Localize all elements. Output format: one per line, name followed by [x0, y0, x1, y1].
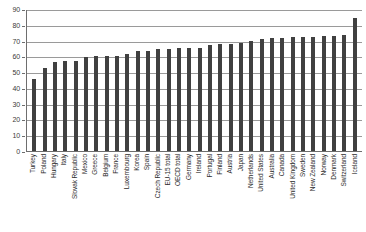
bar — [156, 49, 160, 151]
bar — [322, 36, 326, 151]
x-axis-tick-label: Norway — [320, 154, 327, 175]
y-axis-tick-label: 60 — [0, 53, 20, 60]
bar — [311, 37, 315, 151]
bar-slot — [60, 10, 70, 151]
x-axis-tick-label: Portugal — [206, 154, 213, 177]
bar-slot — [267, 10, 277, 151]
bar — [270, 38, 274, 151]
bar — [229, 44, 233, 151]
bar-slot — [101, 10, 111, 151]
x-axis-tick-label: Hungary — [51, 154, 58, 178]
x-axis-tick-label: Greece — [92, 154, 99, 175]
x-axis-label-slot: Ireland — [194, 153, 204, 231]
x-axis-label-slot: Poland — [38, 153, 48, 231]
y-axis-tick-label: 20 — [0, 116, 20, 123]
bar — [53, 62, 57, 151]
bar — [291, 37, 295, 151]
y-axis-tick-mark — [22, 10, 25, 11]
bar — [342, 35, 346, 151]
bar — [115, 56, 119, 151]
x-axis-tick-label: Germany — [186, 154, 193, 180]
x-axis-tick-label: Poland — [40, 154, 47, 174]
bar-slot — [132, 10, 142, 151]
x-axis-label-slot: Luxembourg — [121, 153, 131, 231]
y-axis-tick-mark — [22, 120, 25, 121]
x-axis-label-slot: Norway — [319, 153, 329, 231]
bar — [260, 39, 264, 151]
x-axis-tick-label: Mexico — [82, 154, 89, 174]
x-axis-tick-label: Japan — [237, 154, 244, 171]
bar — [105, 56, 109, 151]
x-axis-label-slot: Slovak Republic — [70, 153, 80, 231]
bar-slot — [246, 10, 256, 151]
x-axis-tick-label: Ireland — [196, 154, 203, 173]
bar-slot — [236, 10, 246, 151]
y-axis-tick-label: 30 — [0, 101, 20, 108]
bar-slot — [39, 10, 49, 151]
y-axis-tick-mark — [22, 57, 25, 58]
x-axis-label-slot: EU-15 total — [163, 153, 173, 231]
x-axis-label-slot: Austria — [225, 153, 235, 231]
bar — [63, 61, 67, 151]
x-axis-tick-label: Australia — [269, 154, 276, 178]
y-axis-tick-label: 70 — [0, 38, 20, 45]
y-axis-tick-label: 80 — [0, 22, 20, 29]
bar — [332, 36, 336, 151]
x-axis-tick-label: Iceland — [352, 154, 359, 174]
bar-slot — [91, 10, 101, 151]
bar-slot — [308, 10, 318, 151]
x-axis-tick-label: New Zealand — [310, 154, 317, 191]
y-axis-tick-mark — [22, 42, 25, 43]
y-axis-tick-mark — [22, 152, 25, 153]
x-axis-tick-label: Belgium — [103, 154, 110, 177]
x-axis-tick-label: Korea — [134, 154, 141, 171]
bar-slot — [277, 10, 287, 151]
bar — [198, 48, 202, 152]
bar-slot — [288, 10, 298, 151]
x-axis-label-slot: Korea — [132, 153, 142, 231]
bar-slot — [153, 10, 163, 151]
x-axis-labels: TurkeyPolandHungaryItalySlovak RepublicM… — [26, 153, 362, 231]
x-axis-label-slot: Hungary — [49, 153, 59, 231]
y-axis: 9080706050403020100 — [0, 0, 24, 152]
x-axis-label-slot: Turkey — [28, 153, 38, 231]
bar-slot — [184, 10, 194, 151]
y-axis-tick-mark — [22, 136, 25, 137]
x-axis-tick-label: OECD total — [175, 154, 182, 186]
bar — [187, 48, 191, 151]
bar-slot — [195, 10, 205, 151]
x-axis-tick-label: Finland — [217, 154, 224, 175]
bar-chart: 9080706050403020100 TurkeyPolandHungaryI… — [0, 0, 366, 232]
bar — [280, 38, 284, 151]
x-axis-tick-label: Czech Republic — [154, 154, 161, 198]
x-axis-label-slot: Italy — [59, 153, 69, 231]
plot-area — [26, 10, 362, 152]
bar-slot — [215, 10, 225, 151]
y-axis-tick-label: 0 — [0, 148, 20, 155]
x-axis-label-slot: Germany — [184, 153, 194, 231]
y-axis-tick-label: 90 — [0, 6, 20, 13]
bar — [353, 18, 357, 151]
bar — [208, 45, 212, 152]
y-axis-tick-mark — [22, 73, 25, 74]
x-axis-label-slot: Netherlands — [246, 153, 256, 231]
x-axis-tick-label: Italy — [61, 154, 68, 165]
x-axis-tick-label: Luxembourg — [123, 154, 130, 189]
bar-slot — [70, 10, 80, 151]
x-axis-label-slot: Switzerland — [339, 153, 349, 231]
y-axis-tick-mark — [22, 89, 25, 90]
bar-slot — [339, 10, 349, 151]
y-axis-tick-mark — [22, 105, 25, 106]
x-axis-label-slot: France — [111, 153, 121, 231]
bar-slot — [226, 10, 236, 151]
bar-slot — [112, 10, 122, 151]
x-axis-tick-label: Turkey — [30, 154, 37, 173]
bar — [301, 37, 305, 151]
bar — [167, 49, 171, 151]
bar-slot — [50, 10, 60, 151]
bar-slot — [205, 10, 215, 151]
x-axis-label-slot: Mexico — [80, 153, 90, 231]
x-axis-tick-label: United Kingdom — [289, 154, 296, 199]
x-axis-label-slot: Canada — [277, 153, 287, 231]
x-axis-label-slot: Denmark — [329, 153, 339, 231]
